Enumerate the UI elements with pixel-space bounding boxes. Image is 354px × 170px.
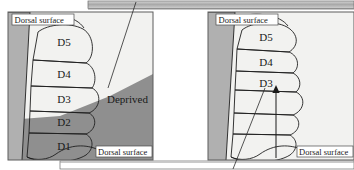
somatotopic-map-figure: D5 D4 D3 D2 D1 Deprived Dorsal surface D… [0,0,354,170]
right-dorsal-surface-bottom-annotation: Dorsal surface [297,146,353,157]
left-deprived-label: Deprived [107,93,148,105]
right-dorsal-surface-bottom-label: Dorsal surface [299,147,349,157]
left-dorsal-surface-bottom-annotation: Dorsal surface [96,146,152,157]
left-dorsal-surface-top-label: Dorsal surface [15,15,65,25]
left-panel: D5 D4 D3 D2 D1 Deprived Dorsal surface D… [8,2,153,162]
top-callout-bar [88,1,354,9]
bottom-callout-bar [60,161,354,169]
left-dorsal-surface-bottom-label: Dorsal surface [98,147,148,157]
right-digit-label-D3: D3 [259,77,273,89]
right-digit-label-D5: D5 [259,31,273,43]
left-digit-label-D5: D5 [57,36,71,48]
left-digit-label-D3: D3 [57,93,71,105]
right-panel: D5 D4 D3 Dorsal surface Dorsal surface [208,12,354,169]
left-dorsal-surface-top-annotation: Dorsal surface [12,14,74,25]
left-digit-label-D4: D4 [57,68,71,80]
right-dorsal-surface-top-label: Dorsal surface [219,15,269,25]
right-digit-label-D4: D4 [259,56,273,68]
left-digit-label-D1: D1 [57,140,70,152]
left-digit-label-D2: D2 [57,116,70,128]
right-dorsal-surface-top-annotation: Dorsal surface [216,14,278,25]
right-digit-labels: D5 D4 D3 [259,31,273,89]
